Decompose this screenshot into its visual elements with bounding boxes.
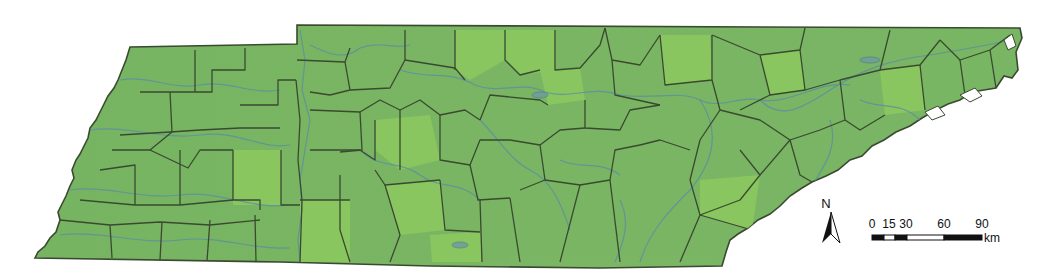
north-label: N [821, 196, 830, 211]
scale-tick-0: 0 [869, 217, 876, 231]
scale-tick-60: 60 [937, 217, 951, 231]
scale-unit: km [984, 231, 1000, 245]
north-arrow: N [821, 196, 840, 243]
north-arrow-icon [822, 212, 831, 243]
scale-tick-90: 90 [975, 217, 989, 231]
tennessee-county-map: N 0 15 30 60 90 km [0, 0, 1052, 275]
scale-tick-15: 15 [882, 217, 896, 231]
scale-tick-30: 30 [899, 217, 913, 231]
scale-bar: 0 15 30 60 90 km [869, 217, 1000, 245]
